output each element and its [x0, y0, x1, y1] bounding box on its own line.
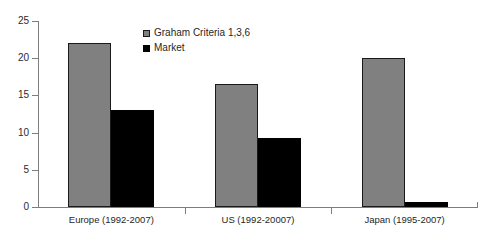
bar-chart: 0510152025 Europe (1992-2007)US (1992-20… — [0, 0, 500, 240]
x-axis-category-label: US (1992-20007) — [185, 214, 332, 225]
bar — [258, 138, 301, 207]
x-axis-category-label: Europe (1992-2007) — [38, 214, 185, 225]
legend-label: Graham Criteria 1,3,6 — [154, 28, 250, 38]
x-axis-category-label: Japan (1995-2007) — [331, 214, 478, 225]
legend: Graham Criteria 1,3,6 Market — [143, 28, 250, 58]
y-axis-tick-label: 15 — [0, 90, 29, 100]
y-axis-tick-label: 20 — [0, 53, 29, 63]
bar — [215, 84, 258, 207]
bar — [405, 202, 448, 207]
gray-square-icon — [143, 30, 150, 37]
legend-label: Market — [154, 43, 185, 53]
y-axis-tick-label: 25 — [0, 16, 29, 26]
x-axis-line — [38, 207, 478, 208]
y-axis-tick — [32, 207, 38, 208]
black-square-icon — [143, 45, 150, 52]
y-axis-tick-label: 0 — [0, 202, 29, 212]
y-axis-tick-label: 10 — [0, 128, 29, 138]
y-axis-tick-label: 5 — [0, 165, 29, 175]
bar — [362, 58, 405, 207]
bar — [68, 43, 111, 207]
legend-item-market: Market — [143, 43, 250, 53]
plot-area — [38, 21, 478, 207]
legend-item-graham: Graham Criteria 1,3,6 — [143, 28, 250, 38]
bar — [111, 110, 154, 207]
